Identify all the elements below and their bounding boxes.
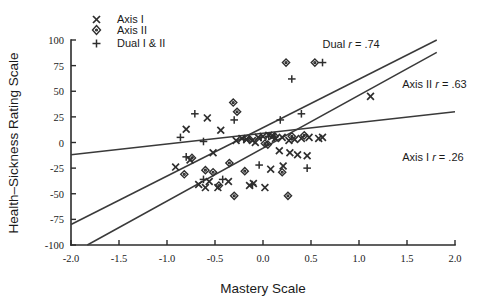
data-points-group xyxy=(172,59,374,200)
x-tick-label: -2.0 xyxy=(63,253,80,264)
data-point-x xyxy=(280,163,287,170)
regression-line xyxy=(71,40,437,225)
data-point-x xyxy=(202,184,209,191)
x-axis-tick-labels: -2.0-1.5-1.0-0.50.00.51.01.52.0 xyxy=(63,253,462,264)
data-point-x xyxy=(367,93,374,100)
y-tick-label: -75 xyxy=(50,214,64,225)
y-tick-label: 50 xyxy=(54,86,65,97)
data-point-x xyxy=(262,184,269,191)
data-point-plus xyxy=(191,110,199,118)
x-axis-title: Mastery Scale xyxy=(220,281,306,296)
chart-legend: Axis I Axis II Dual I & II xyxy=(93,13,166,49)
data-point-plus xyxy=(230,116,238,124)
x-tick-label: 1.5 xyxy=(400,253,413,264)
y-tick-label: 75 xyxy=(54,61,65,72)
x-tick-label: 0.0 xyxy=(256,253,269,264)
x-tick-label: 1.0 xyxy=(352,253,365,264)
x-tick-label: 0.5 xyxy=(304,253,317,264)
data-point-plus xyxy=(303,164,311,172)
data-point-x xyxy=(276,147,283,154)
legend-entry-axis-2: Axis II xyxy=(93,24,147,36)
y-tick-label: -100 xyxy=(45,240,64,251)
data-point-plus xyxy=(298,110,306,118)
data-point-x xyxy=(210,149,217,156)
data-point-diamond xyxy=(202,167,209,174)
legend-marker-plus-icon xyxy=(93,40,101,48)
legend-label-axis-2: Axis II xyxy=(117,24,147,36)
annotation-axis2: Axis II r = .63 xyxy=(402,78,467,90)
x-tick-label: -0.5 xyxy=(207,253,224,264)
data-point-x xyxy=(286,149,293,156)
regression-line xyxy=(87,52,436,245)
scatter-plot-svg: -2.0-1.5-1.0-0.50.00.51.01.52.0 -100-75-… xyxy=(0,0,491,306)
data-point-plus xyxy=(288,75,296,83)
legend-label-dual: Dual I & II xyxy=(117,37,165,49)
data-point-diamond xyxy=(241,168,248,175)
y-tick-label: -25 xyxy=(50,163,64,174)
chart-figure: -2.0-1.5-1.0-0.50.00.51.01.52.0 -100-75-… xyxy=(0,0,491,306)
data-point-diamond xyxy=(282,59,289,66)
data-point-diamond xyxy=(231,192,238,199)
data-point-diamond xyxy=(284,192,291,199)
data-point-x xyxy=(204,115,211,122)
annotations-group: Dual r = .74Axis II r = .63Axis I r = .2… xyxy=(323,38,467,163)
x-tick-label: -1.0 xyxy=(159,253,176,264)
legend-marker-diamond-icon xyxy=(93,26,101,35)
data-point-x xyxy=(279,134,286,141)
annotation-dual: Dual r = .74 xyxy=(323,38,380,50)
data-point-plus xyxy=(255,161,263,169)
data-point-plus xyxy=(177,134,185,142)
series-dual-i-ii xyxy=(177,59,327,189)
y-tick-label: -50 xyxy=(50,189,64,200)
data-point-x xyxy=(267,166,274,173)
legend-entry-dual: Dual I & II xyxy=(93,37,166,49)
y-axis-tick-labels: -100-75-50-250255075100 xyxy=(45,35,64,251)
x-tick-label: -1.5 xyxy=(111,253,128,264)
data-point-x xyxy=(183,126,190,133)
data-point-x xyxy=(172,164,179,171)
data-point-x xyxy=(304,152,311,159)
data-point-diamond xyxy=(181,171,188,178)
y-tick-label: 0 xyxy=(59,138,64,149)
annotation-axis1: Axis I r = .26 xyxy=(402,151,463,163)
legend-marker-x-icon xyxy=(93,16,100,23)
data-point-x xyxy=(217,127,224,134)
data-point-plus xyxy=(200,138,208,146)
data-point-diamond xyxy=(311,59,318,66)
y-tick-label: 25 xyxy=(54,112,65,123)
y-axis-title: Health–Sickness Rating Scale xyxy=(6,53,21,234)
data-point-diamond xyxy=(279,169,286,176)
data-point-plus xyxy=(319,59,327,67)
x-tick-label: 2.0 xyxy=(448,253,461,264)
data-point-x xyxy=(294,151,301,158)
data-point-plus xyxy=(219,176,227,184)
y-tick-label: 100 xyxy=(48,35,64,46)
data-point-diamond xyxy=(230,99,237,106)
data-point-diamond xyxy=(233,108,240,115)
